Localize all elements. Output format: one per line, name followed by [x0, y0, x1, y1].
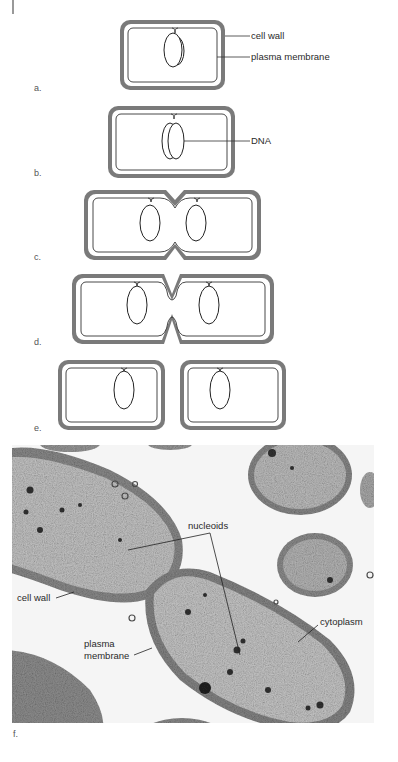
panel-label-b: b.: [34, 168, 42, 178]
cell-wall-label: cell wall: [251, 30, 284, 41]
panel-e: e.: [34, 360, 286, 433]
dna-label: DNA: [251, 135, 272, 146]
panel-c: c.: [34, 190, 261, 262]
panel-d: d.: [34, 274, 274, 347]
cytoplasm-label: cytoplasm: [320, 616, 363, 627]
bacterium: [137, 718, 227, 762]
binary-fission-figure: cell wall plasma membrane a. DNA b. c. d…: [0, 0, 398, 762]
panel-b: DNA b.: [34, 106, 272, 178]
dna-loop: [164, 33, 182, 67]
dna-loop: [168, 123, 184, 159]
photo-plasma-label: plasma: [84, 638, 115, 649]
dna-loop: [127, 286, 147, 324]
photo-cell-wall-label: cell wall: [17, 592, 50, 603]
dna-loop: [140, 205, 160, 241]
panel-a: cell wall plasma membrane a.: [34, 20, 330, 93]
panel-label-c: c.: [34, 252, 41, 262]
dna-loop: [210, 371, 230, 409]
dna-loop: [199, 286, 219, 324]
nucleoids-label: nucleoids: [188, 520, 228, 531]
plasma-membrane-label: plasma membrane: [251, 51, 330, 62]
dna-loop: [114, 371, 134, 409]
photo-membrane-label: membrane: [84, 650, 129, 661]
panel-f-micrograph: nucleoids cell wall plasma membrane cyto…: [0, 435, 380, 762]
panel-label-e: e.: [34, 423, 42, 433]
panel-label-a: a.: [34, 83, 42, 93]
panel-label-f: f.: [13, 729, 18, 739]
dna-loop: [186, 205, 206, 241]
panel-label-d: d.: [34, 337, 42, 347]
